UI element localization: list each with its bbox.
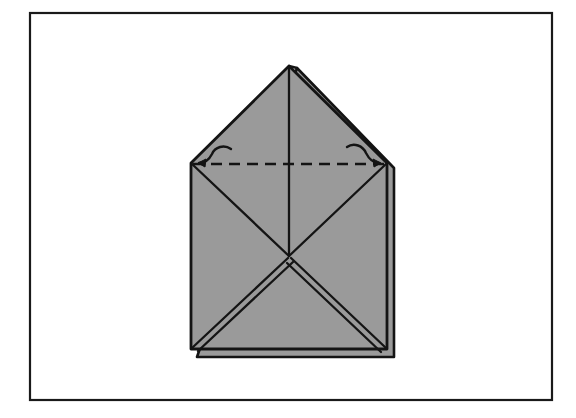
diagram-page xyxy=(0,0,576,418)
origami-diagram-canvas xyxy=(0,0,576,418)
